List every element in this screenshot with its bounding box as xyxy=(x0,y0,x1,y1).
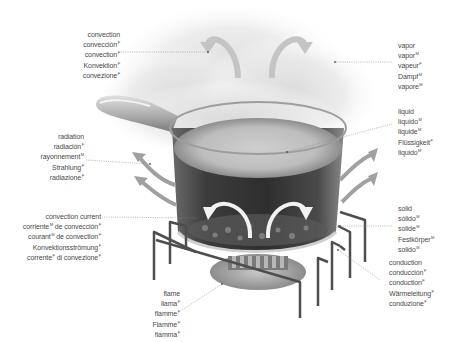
label-text: convezione xyxy=(83,72,117,79)
label-text: líquido xyxy=(398,118,418,125)
gender-marker: F xyxy=(178,309,180,314)
label-text: vapeur xyxy=(398,62,419,69)
gender-marker: M xyxy=(418,117,421,122)
label-text: corrente xyxy=(27,254,52,261)
gender-marker: M xyxy=(431,235,434,240)
gender-marker: M xyxy=(81,152,84,157)
gender-marker: F xyxy=(118,71,120,76)
label-text: vapor xyxy=(398,42,415,49)
label-text: liquid xyxy=(398,108,414,115)
label-text: liquido xyxy=(398,149,418,156)
gender-marker: M xyxy=(419,72,422,77)
gender-marker: F xyxy=(82,142,84,147)
gender-marker: F xyxy=(419,61,421,66)
label-text: conducción xyxy=(389,269,423,276)
label-text: rayonnement xyxy=(41,153,81,160)
label-text: liquide xyxy=(398,128,418,135)
gender-marker: F xyxy=(82,173,84,178)
label-text: conduction xyxy=(389,259,422,266)
label-text: llama xyxy=(161,300,177,307)
radiation-arrows-left xyxy=(132,152,176,205)
label-text: Wärmeleitung xyxy=(389,290,431,297)
label-convection-current: convection current corrienteM de convecc… xyxy=(23,213,101,262)
label-text: solide xyxy=(398,225,416,232)
label-text: Konvektion xyxy=(84,62,118,69)
label-text: radiación xyxy=(54,143,82,150)
label-text: vapor xyxy=(398,52,415,59)
gender-marker: M xyxy=(418,148,421,153)
label-text: solido xyxy=(398,246,416,253)
gender-marker: F xyxy=(178,330,180,335)
label-text: convection current xyxy=(46,213,101,220)
gender-marker: M xyxy=(416,51,419,56)
gender-marker: F xyxy=(422,278,424,283)
gender-marker: F xyxy=(99,232,101,237)
label-text: corriente xyxy=(23,223,49,230)
label-text: Strahlung xyxy=(52,164,81,171)
heat-transfer-diagram: convection convecciónF convectionF Konve… xyxy=(0,0,456,342)
gender-marker: F xyxy=(118,61,120,66)
label-flame: flame llamaF flammeF FlammeF fiammaF xyxy=(152,290,180,339)
label-text: conduzione xyxy=(389,300,424,307)
label-text: convección xyxy=(83,41,117,48)
gender-marker: M xyxy=(416,224,419,229)
label-text: Festkörper xyxy=(398,236,430,243)
label-text: flame xyxy=(163,290,180,297)
label-text: sólido xyxy=(398,215,416,222)
label-text: vapore xyxy=(398,83,419,90)
label-text: Flüssigkeit xyxy=(398,139,430,146)
gender-marker: F xyxy=(431,289,433,294)
label-text: di convezione xyxy=(55,254,98,261)
label-radiation: radiation radiaciónF rayonnementM Strahl… xyxy=(41,133,85,182)
gender-marker: F xyxy=(178,320,180,325)
label-text: Konvektionsströmung xyxy=(33,244,98,251)
label-solid: solid sólidoM solideM FestkörperM solido… xyxy=(398,205,434,254)
gender-marker: F xyxy=(99,253,101,258)
label-conduction: conduction conducciónF conductionF Wärme… xyxy=(389,259,434,308)
label-liquid: liquid líquidoM liquideM FlüssigkeitF li… xyxy=(398,108,433,157)
label-text: conduction xyxy=(389,279,422,286)
gender-marker: F xyxy=(424,299,426,304)
label-text: radiation xyxy=(58,133,84,140)
label-text: Flamme xyxy=(152,321,177,328)
gender-marker: M xyxy=(418,127,421,132)
gender-marker: F xyxy=(430,138,432,143)
label-vapor: vapor vaporM vapeurF DampfM vaporeM xyxy=(398,42,423,91)
label-convection: convection convecciónF convectionF Konve… xyxy=(83,31,120,80)
label-text: de convección xyxy=(53,223,98,230)
gender-marker: F xyxy=(118,50,120,55)
gender-marker: M xyxy=(416,245,419,250)
label-text: flamme xyxy=(155,310,177,317)
label-text: courant xyxy=(28,233,51,240)
gender-marker: F xyxy=(99,222,101,227)
label-text: radiazione xyxy=(50,174,81,181)
gender-marker: F xyxy=(99,243,101,248)
gender-marker: M xyxy=(419,82,422,87)
radiation-arrows-right xyxy=(340,148,378,202)
gender-marker: F xyxy=(118,40,120,45)
gender-marker: F xyxy=(178,299,180,304)
label-text: convection xyxy=(85,51,117,58)
label-text: Dampf xyxy=(398,73,418,80)
label-text: solid xyxy=(398,205,412,212)
gender-marker: F xyxy=(424,268,426,273)
gender-marker: M xyxy=(416,214,419,219)
label-text: de convection xyxy=(54,233,98,240)
label-text: fiamma xyxy=(155,331,177,338)
label-text: convection xyxy=(88,31,120,38)
gender-marker: F xyxy=(82,163,84,168)
